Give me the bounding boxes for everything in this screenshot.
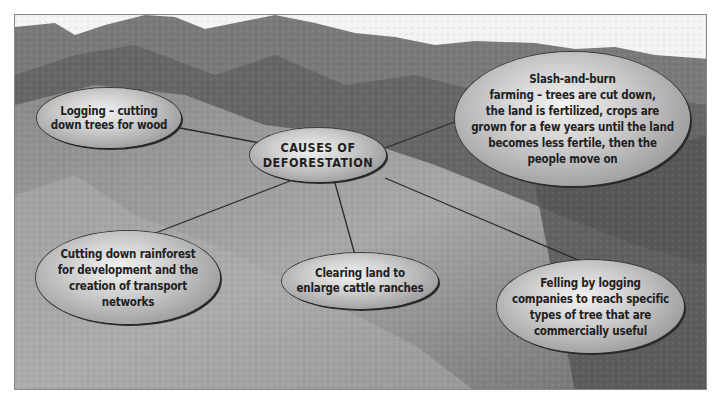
cause-label-development: Cutting down rainforest for development … (58, 246, 198, 310)
cause-label-cattle-ranches: Clearing land to enlarge cattle ranches (297, 266, 424, 296)
cause-label-felling: Felling by logging companies to reach sp… (512, 275, 669, 339)
cause-bubble-logging: Logging – cutting down trees for wood (37, 88, 181, 148)
cause-label-logging: Logging – cutting down trees for wood (51, 104, 168, 132)
cause-bubble-slash-and-burn: Slash-and-burn farming – trees are cut d… (455, 52, 690, 186)
cause-label-slash-and-burn: Slash-and-burn farming – trees are cut d… (471, 71, 674, 167)
cause-bubble-development: Cutting down rainforest for development … (36, 231, 220, 324)
cause-bubble-cattle-ranches: Clearing land to enlarge cattle ranches (282, 253, 438, 309)
center-bubble-title: CAUSES OF DEFORESTATION (250, 128, 386, 182)
diagram-title: CAUSES OF DEFORESTATION (263, 140, 373, 170)
cause-bubble-felling: Felling by logging companies to reach sp… (497, 260, 684, 353)
